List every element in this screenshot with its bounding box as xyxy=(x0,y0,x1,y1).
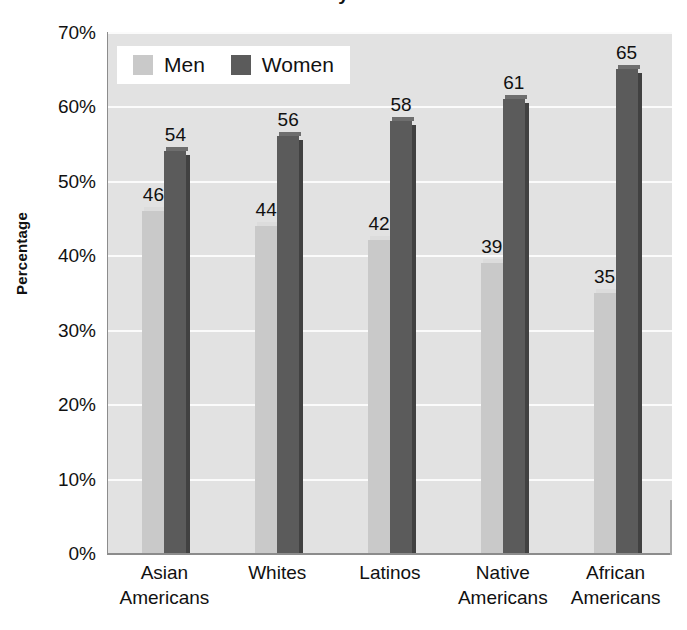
x-axis-label-line: Asian xyxy=(108,560,221,585)
y-axis-tick-label: 10% xyxy=(58,469,96,488)
bar-front-face xyxy=(142,211,164,553)
bar-women-african-americans: 65 xyxy=(616,69,638,553)
bar-women-asian-americans: 54 xyxy=(164,151,186,553)
bar-front-face xyxy=(277,136,299,553)
bar-front-face xyxy=(503,99,525,553)
x-axis-label-african-americans: AfricanAmericans xyxy=(559,560,672,610)
bar-men-latinos: 42 xyxy=(368,240,390,553)
x-axis-label-line: Whites xyxy=(221,560,334,585)
bar-front-face xyxy=(390,121,412,553)
bar-side-face xyxy=(638,73,642,553)
x-axis-label-line: African xyxy=(559,560,672,585)
bar-value-label: 46 xyxy=(143,185,164,204)
bar-value-label: 54 xyxy=(165,125,186,144)
legend-swatch-women-icon xyxy=(231,55,251,75)
bar-side-face xyxy=(525,103,529,553)
bar-value-label: 42 xyxy=(368,214,389,233)
bar-men-african-americans: 35 xyxy=(594,293,616,554)
chart-legend: MenWomen xyxy=(117,46,350,84)
bar-women-latinos: 58 xyxy=(390,121,412,553)
bar-men-native-americans: 39 xyxy=(481,263,503,553)
bar-value-label: 58 xyxy=(390,95,411,114)
y-axis-tick-label: 50% xyxy=(58,171,96,190)
bar-value-label: 65 xyxy=(616,43,637,62)
plot-right-edge xyxy=(670,500,672,555)
grouped-bar-chart: Percentage 70%60%50%40%30%20%10%0% 46544… xyxy=(0,0,687,630)
bar-men-asian-americans: 46 xyxy=(142,211,164,553)
x-axis-label-line: Americans xyxy=(446,585,559,610)
x-axis-label-line: Americans xyxy=(108,585,221,610)
x-axis-category-labels: AsianAmericansWhitesLatinosNativeAmerica… xyxy=(108,560,672,626)
bar-front-face xyxy=(616,69,638,553)
legend-swatch-men-icon xyxy=(133,55,153,75)
x-axis-label-native-americans: NativeAmericans xyxy=(446,560,559,610)
bar-side-face xyxy=(299,140,303,553)
y-axis-tick-label: 60% xyxy=(58,97,96,116)
bar-women-whites: 56 xyxy=(277,136,299,553)
bar-front-face xyxy=(368,240,390,553)
legend-label: Women xyxy=(262,54,334,75)
x-axis-label-latinos: Latinos xyxy=(334,560,447,585)
bar-front-face xyxy=(594,293,616,554)
bar-value-label: 61 xyxy=(503,73,524,92)
legend-entry-men[interactable]: Men xyxy=(133,54,205,75)
x-axis-label-line: Americans xyxy=(559,585,672,610)
x-axis-label-asian-americans: AsianAmericans xyxy=(108,560,221,610)
y-axis-tick-label: 40% xyxy=(58,246,96,265)
legend-entry-women[interactable]: Women xyxy=(231,54,334,75)
x-axis-label-whites: Whites xyxy=(221,560,334,585)
plot-area: 46544456425839613565 MenWomen xyxy=(108,32,672,553)
bar-front-face xyxy=(255,226,277,553)
bar-front-face xyxy=(481,263,503,553)
bar-value-label: 39 xyxy=(481,237,502,256)
bar-value-label: 44 xyxy=(256,200,277,219)
y-axis-tick-label: 30% xyxy=(58,320,96,339)
bar-front-face xyxy=(164,151,186,553)
bar-women-native-americans: 61 xyxy=(503,99,525,553)
legend-label: Men xyxy=(164,54,205,75)
bar-side-face xyxy=(186,155,190,553)
bar-side-face xyxy=(412,125,416,553)
bar-value-label: 56 xyxy=(278,110,299,129)
y-axis-title: Percentage xyxy=(13,174,30,334)
x-axis-line xyxy=(108,553,672,555)
gridline xyxy=(108,32,672,34)
bar-value-label: 35 xyxy=(594,267,615,286)
bar-men-whites: 44 xyxy=(255,226,277,553)
x-axis-label-line: Native xyxy=(446,560,559,585)
y-axis-tick-label: 20% xyxy=(58,395,96,414)
x-axis-label-line: Latinos xyxy=(334,560,447,585)
y-axis-tick-label: 70% xyxy=(58,23,96,42)
y-axis-tick-labels: 70%60%50%40%30%20%10%0% xyxy=(40,32,102,553)
y-axis-tick-label: 0% xyxy=(69,544,96,563)
